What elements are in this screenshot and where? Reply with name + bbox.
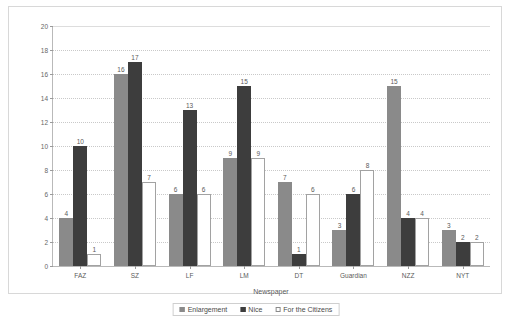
x-tick-mark [244, 266, 245, 269]
x-tick-label: FAZ [74, 272, 86, 279]
chart-frame: 02468101214161820 4101FAZ16177SZ6136LF91… [8, 6, 502, 294]
bar-groups: 4101FAZ16177SZ6136LF9159LM716DT368Guardi… [53, 26, 490, 266]
legend-item[interactable]: Enlargement [180, 306, 228, 313]
bar-value-label: 2 [475, 234, 479, 241]
bar-value-label: 2 [461, 234, 465, 241]
legend-item[interactable]: For the Citizens [275, 306, 332, 313]
bar[interactable]: 1 [87, 254, 101, 266]
bar-group: 368Guardian [326, 26, 381, 266]
legend-swatch-icon [275, 307, 280, 312]
x-tick-mark [190, 266, 191, 269]
bar-group: 322NYT [435, 26, 490, 266]
x-axis-title: Newspaper [52, 288, 490, 295]
bar-group: 1544NZZ [381, 26, 436, 266]
bar[interactable]: 6 [306, 194, 320, 266]
legend-swatch-icon [240, 307, 245, 312]
bar-value-label: 3 [338, 222, 342, 229]
x-tick-mark [353, 266, 354, 269]
bar[interactable]: 9 [251, 158, 265, 266]
bar-value-label: 3 [447, 222, 451, 229]
bar-group-bars: 16177 [108, 26, 163, 266]
bar[interactable]: 4 [59, 218, 73, 266]
x-tick-label: LM [240, 272, 249, 279]
bar-slot: 10 [73, 26, 87, 266]
bar-group-bars: 1544 [381, 26, 436, 266]
bar-value-label: 6 [352, 186, 356, 193]
bar-slot: 2 [470, 26, 484, 266]
bar[interactable]: 1 [292, 254, 306, 266]
x-tick-label: LF [186, 272, 194, 279]
x-tick-label: DT [294, 272, 303, 279]
bar[interactable]: 4 [401, 218, 415, 266]
bar-slot: 4 [59, 26, 73, 266]
bar[interactable]: 16 [114, 74, 128, 266]
bar-value-label: 15 [390, 78, 397, 85]
bar[interactable]: 17 [128, 62, 142, 266]
bar[interactable]: 10 [73, 146, 87, 266]
bar-group-bars: 716 [272, 26, 327, 266]
y-tick-label: 6 [44, 191, 48, 198]
bar-slot: 15 [387, 26, 401, 266]
bar-slot: 3 [442, 26, 456, 266]
bar[interactable]: 3 [332, 230, 346, 266]
bar-slot: 4 [415, 26, 429, 266]
bar[interactable]: 15 [387, 86, 401, 266]
legend-label: Enlargement [188, 306, 228, 313]
bar-group-bars: 322 [435, 26, 490, 266]
chart-legend: EnlargementNiceFor the Citizens [173, 303, 340, 316]
bar-value-label: 9 [228, 150, 232, 157]
y-tick-label: 20 [41, 23, 48, 30]
bar[interactable]: 8 [360, 170, 374, 266]
x-tick-label: NYT [456, 272, 469, 279]
plot-area: 02468101214161820 4101FAZ16177SZ6136LF91… [52, 26, 490, 267]
bar[interactable]: 4 [415, 218, 429, 266]
bar[interactable]: 9 [223, 158, 237, 266]
y-tick-label: 14 [41, 95, 48, 102]
bar-value-label: 4 [406, 210, 410, 217]
bar-value-label: 6 [311, 186, 315, 193]
bar-group: 716DT [272, 26, 327, 266]
bar[interactable]: 2 [470, 242, 484, 266]
bar-slot: 7 [278, 26, 292, 266]
bar-group: 6136LF [162, 26, 217, 266]
bar[interactable]: 7 [278, 182, 292, 266]
bar-slot: 6 [346, 26, 360, 266]
bar-value-label: 8 [366, 162, 370, 169]
y-tick-label: 10 [41, 143, 48, 150]
x-tick-label: SZ [131, 272, 139, 279]
bar-value-label: 1 [297, 246, 301, 253]
bar-value-label: 17 [131, 54, 138, 61]
x-tick-label: Guardian [340, 272, 367, 279]
x-tick-mark [299, 266, 300, 269]
bar[interactable]: 15 [237, 86, 251, 266]
legend-item[interactable]: Nice [240, 306, 262, 313]
x-tick-label: NZZ [402, 272, 415, 279]
bar-slot: 2 [456, 26, 470, 266]
bar[interactable]: 3 [442, 230, 456, 266]
bar[interactable]: 6 [197, 194, 211, 266]
y-tick-label: 12 [41, 119, 48, 126]
bar-slot: 16 [114, 26, 128, 266]
bar-value-label: 10 [77, 138, 84, 145]
bar[interactable]: 13 [183, 110, 197, 266]
bar-group-bars: 9159 [217, 26, 272, 266]
bar-group: 9159LM [217, 26, 272, 266]
bar[interactable]: 6 [169, 194, 183, 266]
bar-value-label: 7 [283, 174, 287, 181]
bar-group-bars: 4101 [53, 26, 108, 266]
bar-slot: 15 [237, 26, 251, 266]
y-tick-mark [50, 266, 53, 267]
bar[interactable]: 7 [142, 182, 156, 266]
bar-group: 16177SZ [108, 26, 163, 266]
bar-slot: 7 [142, 26, 156, 266]
bar-slot: 6 [169, 26, 183, 266]
bar-value-label: 6 [174, 186, 178, 193]
x-tick-mark [463, 266, 464, 269]
x-tick-mark [80, 266, 81, 269]
y-tick-label: 0 [44, 263, 48, 270]
bar[interactable]: 6 [346, 194, 360, 266]
bar[interactable]: 2 [456, 242, 470, 266]
bar-slot: 9 [251, 26, 265, 266]
legend-label: For the Citizens [283, 306, 332, 313]
legend-swatch-icon [180, 307, 185, 312]
